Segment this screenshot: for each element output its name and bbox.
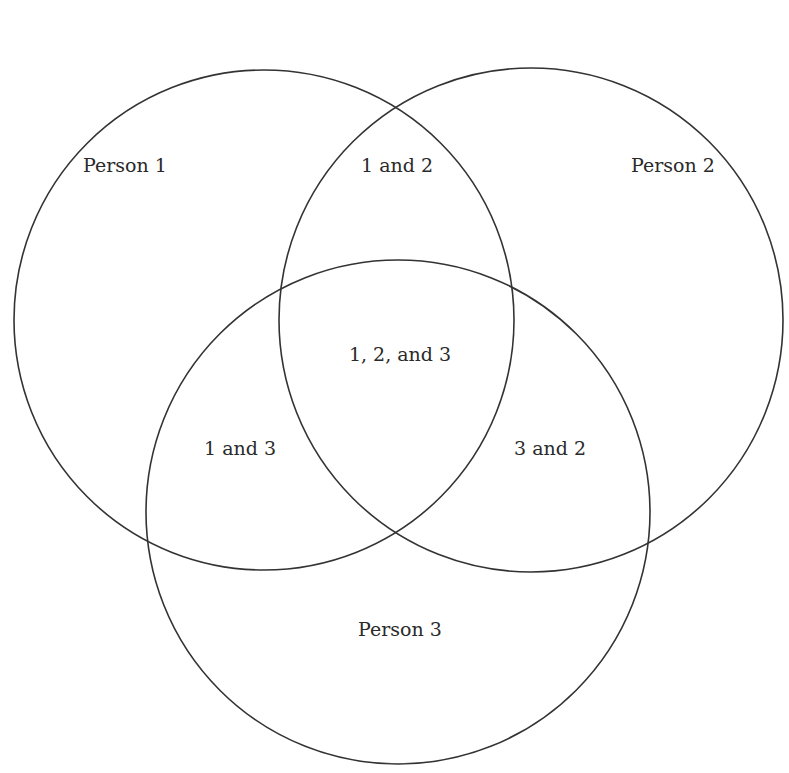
label-intersection-3-2: 3 and 2 <box>514 437 586 459</box>
venn-diagram: Person 1 Person 2 Person 3 1 and 2 1 and… <box>0 0 789 773</box>
label-intersection-1-2: 1 and 2 <box>361 154 433 176</box>
label-intersection-1-3: 1 and 3 <box>204 437 276 459</box>
label-person-2: Person 2 <box>631 154 715 176</box>
circle-person-1 <box>14 70 514 570</box>
label-intersection-1-2-3: 1, 2, and 3 <box>349 343 451 365</box>
circle-person-2 <box>279 68 783 572</box>
label-person-3: Person 3 <box>358 618 442 640</box>
circle-person-3 <box>146 260 650 764</box>
label-person-1: Person 1 <box>83 154 167 176</box>
